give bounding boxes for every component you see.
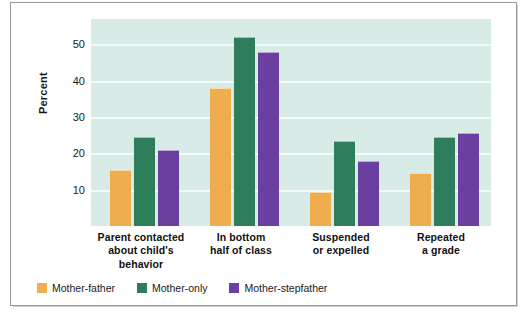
chart-figure-frame: Percent 1020304050 Parent contactedabout… [10,2,517,306]
x-axis-category-label: Suspendedor expelled [291,231,391,258]
bar [158,150,179,226]
legend-label: Mother-stepfather [244,282,327,294]
y-axis-tick-label: 20 [73,148,85,159]
y-axis-tick-label: 40 [73,75,85,86]
legend-label: Mother-only [152,282,207,294]
chart-legend: Mother-fatherMother-onlyMother-stepfathe… [37,282,327,294]
legend-swatch-icon [37,283,47,293]
bars-layer [91,19,491,226]
bar [210,88,231,226]
bar-group [310,19,379,226]
x-axis-category-labels: Parent contactedabout child'sbehaviorIn … [91,231,491,275]
bar-group [410,19,479,226]
bar [434,137,455,226]
y-axis-title: Percent [37,96,49,114]
x-axis-category-label: In bottomhalf of class [191,231,291,258]
y-axis-tick-label: 10 [73,184,85,195]
y-axis-tick-label: 30 [73,112,85,123]
legend-item[interactable]: Mother-stepfather [229,282,327,294]
y-axis-tick-labels: 1020304050 [55,19,85,226]
bar [358,161,379,226]
bar [458,133,479,226]
plot-area [91,19,491,226]
bar-group [110,19,179,226]
legend-label: Mother-father [52,282,115,294]
bar [134,137,155,226]
bar [310,192,331,227]
bar [258,52,279,226]
legend-item[interactable]: Mother-only [137,282,207,294]
bar-group [210,19,279,226]
bar [410,173,431,226]
y-axis-tick-label: 50 [73,39,85,50]
bar [334,141,355,226]
legend-swatch-icon [137,283,147,293]
x-axis-category-label: Parent contactedabout child'sbehavior [91,231,191,271]
x-axis-category-label: Repeateda grade [391,231,491,258]
legend-swatch-icon [229,283,239,293]
bar [234,37,255,226]
bar [110,170,131,226]
legend-item[interactable]: Mother-father [37,282,115,294]
